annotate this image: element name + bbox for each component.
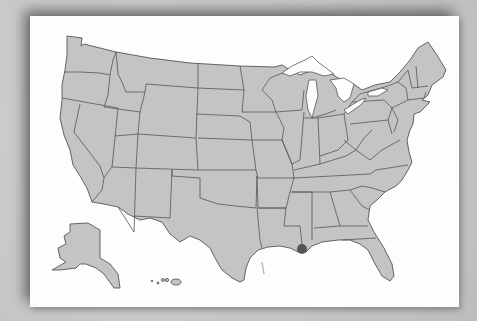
hawaii — [151, 278, 181, 285]
us-map — [0, 0, 477, 321]
alaska — [52, 223, 120, 288]
location-marker[interactable] — [297, 244, 307, 254]
streak-artifact — [262, 262, 264, 274]
